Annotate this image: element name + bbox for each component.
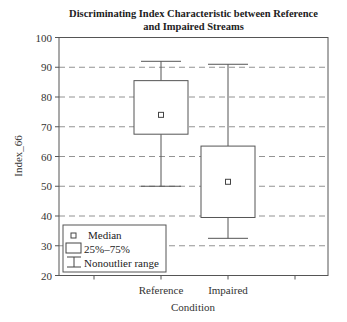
median-marker — [159, 112, 164, 117]
iqr-box — [134, 81, 188, 135]
boxplot-chart: 2030405060708090100ReferenceImpairedCond… — [0, 0, 347, 322]
x-axis-label: Condition — [171, 301, 216, 313]
y-axis-label: Index_66 — [12, 135, 24, 177]
y-tick-label: 70 — [41, 121, 53, 133]
y-tick-label: 20 — [41, 270, 53, 282]
legend-median-label: Median — [88, 229, 122, 241]
median-marker — [226, 179, 231, 184]
x-tick-label: Reference — [139, 284, 184, 296]
y-tick-label: 30 — [41, 240, 53, 252]
y-tick-label: 90 — [41, 61, 53, 73]
legend-iqr-icon — [66, 243, 81, 253]
legend-whisker-label: Nonoutlier range — [84, 257, 159, 269]
y-tick-label: 100 — [36, 32, 53, 44]
legend-iqr-label: 25%–75% — [84, 243, 130, 255]
y-tick-label: 60 — [41, 151, 53, 163]
x-tick-label: Impaired — [208, 284, 248, 296]
y-tick-label: 80 — [41, 91, 53, 103]
y-tick-label: 40 — [41, 210, 53, 222]
legend-median-icon — [71, 233, 76, 238]
y-tick-label: 50 — [41, 180, 53, 192]
